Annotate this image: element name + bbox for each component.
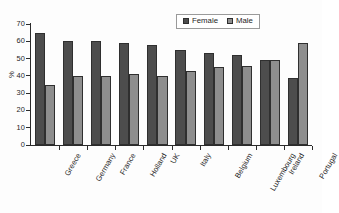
bar-france-female xyxy=(91,41,101,145)
legend-swatch-male-icon xyxy=(227,18,233,24)
legend-label-female: Female xyxy=(192,17,218,25)
y-axis-tick-label: 70 xyxy=(3,20,25,27)
y-axis-tick-labels: 010203040506070 xyxy=(0,0,25,213)
y-axis-title: % xyxy=(7,71,16,78)
x-axis-label-holland: Holland xyxy=(148,152,167,178)
x-axis-tick xyxy=(87,146,88,150)
x-axis-tick xyxy=(256,146,257,150)
y-axis-tick-label: 10 xyxy=(3,124,25,131)
bar-portugal-male xyxy=(298,43,308,145)
bar-ireland-male xyxy=(270,60,280,145)
bar-greece-male xyxy=(45,85,55,146)
bar-belgium-male xyxy=(214,67,224,145)
bar-france-male xyxy=(101,76,111,145)
legend-item-female: Female xyxy=(183,17,218,25)
legend-label-male: Male xyxy=(236,17,253,25)
x-axis-label-portugal: Portugal xyxy=(318,152,339,180)
x-axis-label-belgium: Belgium xyxy=(234,152,254,180)
bar-italy-male xyxy=(186,71,196,145)
y-axis-tick-label: 20 xyxy=(3,106,25,113)
y-axis-tick-label: 30 xyxy=(3,89,25,96)
bar-germany-female xyxy=(63,41,73,145)
x-axis-label-france: France xyxy=(119,152,137,176)
x-axis-tick xyxy=(172,146,173,150)
x-axis-tick xyxy=(143,146,144,150)
plot-area xyxy=(31,24,312,145)
x-axis-tick xyxy=(312,146,313,150)
bar-holland-male xyxy=(129,74,139,145)
x-axis-label-germany: Germany xyxy=(95,152,117,183)
bar-uk-male xyxy=(157,76,167,145)
bar-luxembourg-female xyxy=(232,55,242,145)
bar-uk-female xyxy=(147,45,157,145)
legend-item-male: Male xyxy=(227,17,253,25)
x-axis-tick xyxy=(59,146,60,150)
bar-greece-female xyxy=(35,33,45,145)
bar-ireland-female xyxy=(260,60,270,145)
x-axis-label-italy: Italy xyxy=(199,152,213,168)
chart-legend: Female Male xyxy=(176,14,260,29)
x-axis-label-uk: UK xyxy=(169,152,181,165)
bar-belgium-female xyxy=(204,53,214,145)
bar-germany-male xyxy=(73,76,83,145)
x-axis-tick xyxy=(115,146,116,150)
y-axis-tick-label: 0 xyxy=(3,141,25,148)
x-axis-tick xyxy=(284,146,285,150)
bar-portugal-female xyxy=(288,78,298,145)
x-axis-tick xyxy=(228,146,229,150)
y-axis-tick-label: 50 xyxy=(3,55,25,62)
bar-holland-female xyxy=(119,43,129,145)
bar-luxembourg-male xyxy=(242,66,252,146)
bar-italy-female xyxy=(175,50,185,145)
legend-swatch-female-icon xyxy=(183,18,189,24)
y-axis-tick-label: 60 xyxy=(3,37,25,44)
x-axis-tick xyxy=(200,146,201,150)
x-axis-label-greece: Greece xyxy=(64,152,83,177)
